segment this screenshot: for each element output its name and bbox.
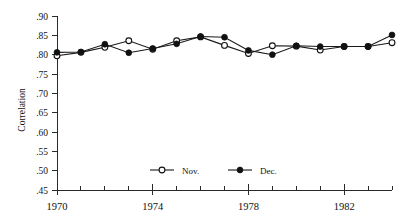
x-tick-label: 1970 [47,201,68,212]
y-tick-label: .55 [36,147,48,157]
legend-label-dec: Dec. [260,166,277,176]
y-tick-label: .85 [36,31,48,41]
data-point-nov [126,38,132,44]
data-point-dec [341,44,347,50]
y-tick-label: .70 [36,89,48,99]
x-tick-label: 1982 [334,201,355,212]
x-tick-label: 1978 [238,201,259,212]
y-tick-label: .45 [36,186,48,196]
data-point-dec [222,34,228,40]
y-axis-label: Correlation [17,88,27,132]
data-point-dec [174,41,180,47]
data-point-dec [246,48,252,54]
y-tick-label: .75 [36,70,48,80]
y-tick-label: .80 [36,50,48,60]
data-point-dec [365,44,371,50]
legend-marker-dec-icon [237,167,243,173]
x-tick-label: 1974 [142,201,164,212]
data-point-dec [78,49,84,55]
y-tick-label: .90 [36,12,48,22]
chart-series [54,32,395,59]
legend-label-nov: Nov. [182,166,199,176]
data-point-dec [126,50,132,56]
data-point-nov [222,42,228,48]
data-point-dec [54,49,60,55]
data-point-dec [102,41,108,47]
data-point-dec [389,32,395,38]
y-tick-label: .65 [36,108,48,118]
chart-figure: .45.50.55.60.65.70.75.80.85.90 197019741… [0,0,404,224]
data-point-nov [389,40,395,46]
y-tick-label: .60 [36,128,48,138]
legend-marker-nov-icon [159,167,165,173]
y-axis-ticks: .45.50.55.60.65.70.75.80.85.90 [36,12,57,196]
data-point-dec [269,52,275,58]
data-point-dec [317,44,323,50]
x-axis-ticks: 1970197419781982 [47,184,393,212]
line-chart: .45.50.55.60.65.70.75.80.85.90 197019741… [0,0,404,224]
chart-legend: Nov.Dec. [150,166,277,176]
y-tick-label: .50 [36,166,48,176]
data-point-dec [293,43,299,49]
data-point-dec [150,46,156,52]
data-point-nov [269,43,275,49]
data-point-dec [198,34,204,40]
